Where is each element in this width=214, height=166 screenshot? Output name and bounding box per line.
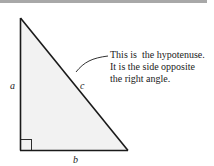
annotation-line-2: It is the side opposite: [110, 61, 196, 72]
annotation-line-1: This is the hypotenuse.: [110, 49, 205, 60]
label-b: b: [73, 154, 78, 165]
annotation-leader-curve: [76, 56, 108, 72]
diagram-canvas: a c b This is the hypotenuse. It is the …: [0, 0, 214, 166]
annotation-line-3: the right angle.: [110, 73, 170, 84]
label-a: a: [10, 80, 15, 91]
label-c: c: [80, 80, 85, 91]
triangle-diagram: a c b This is the hypotenuse. It is the …: [0, 0, 214, 166]
